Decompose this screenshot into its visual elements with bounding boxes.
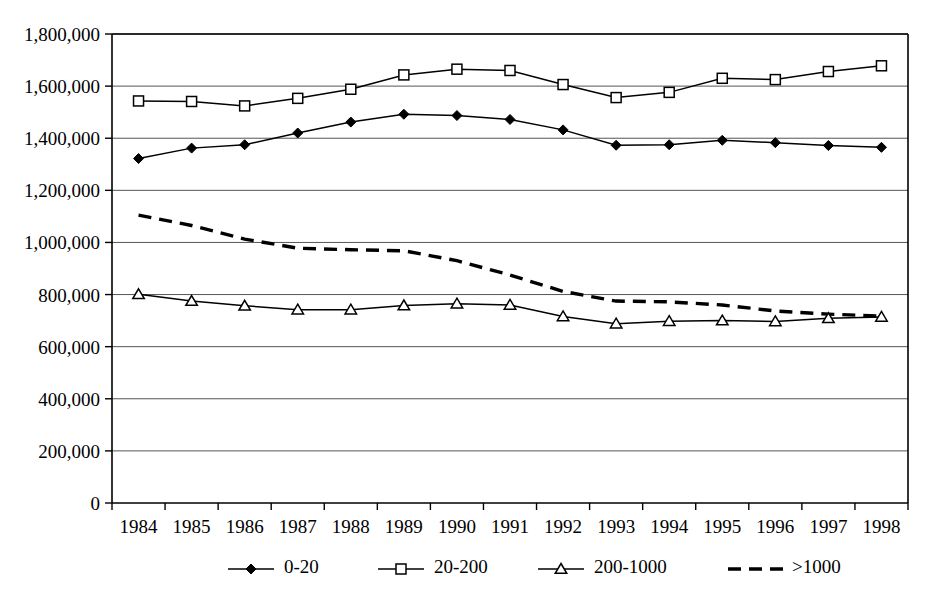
x-axis-tick-label: 1989 [385,516,423,537]
x-axis-tick-label: 1993 [597,516,635,537]
data-point-0-20 [664,140,674,150]
data-point-20-200 [558,80,568,90]
data-point-200-1000 [133,289,145,299]
line-chart: 0200,000400,000600,000800,0001,000,0001,… [0,0,935,605]
x-axis-tick-label: 1987 [279,516,317,537]
data-point-20-200 [452,64,462,74]
data-point-0-20 [823,141,833,151]
x-axis-tick-label: 1990 [438,516,476,537]
x-axis-tick-label: 1994 [650,516,689,537]
x-axis-tick-label: 1991 [491,516,529,537]
x-axis-tick-label: 1985 [173,516,211,537]
legend-item-label: >1000 [792,556,841,577]
chart-canvas: 0200,000400,000600,000800,0001,000,0001,… [0,0,935,605]
data-series [133,61,887,328]
y-axis-tick-label: 1,600,000 [24,76,100,97]
y-axis-tick-label: 1,000,000 [24,232,100,253]
data-point-0-20 [611,140,621,150]
y-axis-tick-label: 1,800,000 [24,24,100,45]
x-axis-tick-label: 1996 [756,516,794,537]
data-point-0-20 [452,111,462,121]
x-axis-tick-label: 1998 [862,516,900,537]
legend-swatch-marker [246,564,256,574]
x-axis-tick-label: 1984 [120,516,159,537]
x-axis-tick-label: 1986 [226,516,264,537]
legend-item-label: 200-1000 [594,556,667,577]
legend-item->1000: >1000 [728,556,841,577]
y-axis-tick-label: 400,000 [38,389,100,410]
data-point-20-200 [187,96,197,106]
data-point-0-20 [293,128,303,138]
y-axis-tick-label: 800,000 [38,285,100,306]
x-axis-tick-label: 1997 [809,516,847,537]
x-axis-labels: 1984198519861987198819891990199119921993… [120,516,901,537]
data-point-0-20 [187,143,197,153]
data-point-0-20 [134,154,144,164]
data-point-20-200 [823,67,833,77]
data-point-20-200 [611,93,621,103]
legend-swatch-marker [396,564,406,574]
data-point-20-200 [240,101,250,111]
legend-item-0-20: 0-20 [228,556,319,577]
data-point-20-200 [717,73,727,83]
data-point-20-200 [664,87,674,97]
legend-item-label: 0-20 [284,556,319,577]
gridlines [112,34,908,451]
data-point-0-20 [558,125,568,135]
data-point-20-200 [399,70,409,80]
x-axis-tick-label: 1988 [332,516,370,537]
x-axis-ticks [112,503,908,510]
data-point-20-200 [134,96,144,106]
y-axis-ticks [105,34,112,503]
y-axis-tick-label: 200,000 [38,441,100,462]
legend-item-200-1000: 200-1000 [538,556,667,577]
legend-item-label: 20-200 [434,556,488,577]
x-axis-tick-label: 1992 [544,516,582,537]
data-point-20-200 [293,93,303,103]
data-point-0-20 [876,142,886,152]
data-point-0-20 [346,117,356,127]
x-axis-tick-label: 1995 [703,516,741,537]
y-axis-tick-label: 1,400,000 [24,128,100,149]
y-axis-tick-label: 0 [91,493,101,514]
data-point-0-20 [505,114,515,124]
y-axis-tick-label: 1,200,000 [24,180,100,201]
data-point-20-200 [505,65,515,75]
data-point-0-20 [240,140,250,150]
y-axis-tick-label: 600,000 [38,337,100,358]
data-point-20-200 [876,61,886,71]
data-point-20-200 [770,75,780,85]
y-axis-labels: 0200,000400,000600,000800,0001,000,0001,… [24,24,100,514]
chart-legend: 0-2020-200200-1000>1000 [228,556,841,577]
data-point-0-20 [717,135,727,145]
data-point-20-200 [346,84,356,94]
data-point-0-20 [399,109,409,119]
legend-item-20-200: 20-200 [378,556,488,577]
data-point-0-20 [770,138,780,148]
